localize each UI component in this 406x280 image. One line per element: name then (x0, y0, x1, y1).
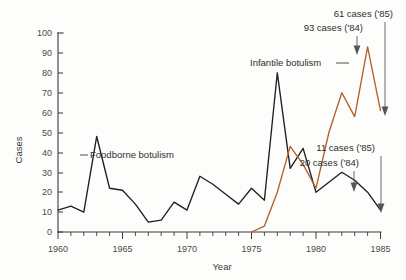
annotation-93-cases: 93 cases ('84) (304, 22, 363, 33)
x-tick-label-1975: 1975 (241, 244, 261, 254)
x-axis-tick-labels: 1960 1965 1970 1975 1980 1985 (48, 244, 391, 254)
x-axis-minor-ticks (71, 232, 368, 236)
y-tick-label-30: 30 (42, 168, 52, 178)
annotation-61-cases: 61 cases ('85) (334, 8, 393, 19)
y-tick-label-90: 90 (42, 48, 52, 58)
y-axis-tick-labels: 0 10 20 30 40 50 60 70 80 90 100 (37, 28, 52, 237)
annotation-20-arrow-head (351, 183, 358, 193)
y-tick-label-10: 10 (42, 207, 52, 217)
series-label-infantile-group: Infantile botulism (250, 57, 349, 68)
x-tick-label-1980: 1980 (306, 244, 326, 254)
series-label-foodborne-group: Foodborne botulism (80, 149, 174, 160)
x-tick-label-1985: 1985 (370, 244, 390, 254)
series-label-infantile: Infantile botulism (250, 57, 321, 68)
annotation-11-cases: 11 cases ('85) (316, 142, 375, 153)
y-tick-label-60: 60 (42, 108, 52, 118)
botulism-cases-chart-figure: 0 10 20 30 40 50 60 70 80 90 100 Cases (0, 0, 406, 280)
y-tick-label-100: 100 (37, 28, 52, 38)
y-tick-label-0: 0 (47, 227, 52, 237)
annotation-93-arrow-head (354, 46, 361, 56)
y-tick-label-50: 50 (42, 128, 52, 138)
x-tick-label-1970: 1970 (177, 244, 197, 254)
y-tick-label-40: 40 (42, 148, 52, 158)
y-axis-title: Cases (13, 136, 24, 163)
annotation-20-cases: 20 cases ('84) (300, 157, 359, 168)
x-axis-major-ticks (58, 232, 381, 239)
x-tick-label-1965: 1965 (112, 244, 132, 254)
x-tick-label-1960: 1960 (48, 244, 68, 254)
chart-canvas: 0 10 20 30 40 50 60 70 80 90 100 Cases (0, 0, 406, 280)
annotation-61-arrow-head (382, 107, 389, 117)
series-label-foodborne: Foodborne botulism (90, 149, 174, 160)
y-tick-label-70: 70 (42, 88, 52, 98)
x-axis-title: Year (212, 261, 231, 272)
y-tick-label-20: 20 (42, 187, 52, 197)
y-axis-ticks (58, 53, 63, 232)
annotation-93-cases-group: 93 cases ('84) (304, 22, 363, 55)
y-tick-label-80: 80 (42, 68, 52, 78)
